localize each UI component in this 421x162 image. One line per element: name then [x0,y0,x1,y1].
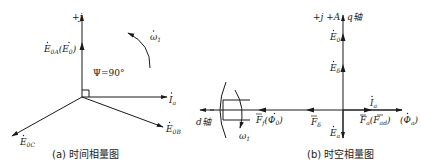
phasor-diagram-figure: +j E0A(E0) Ψ=90° Ia E0B E0C [0,0,421,162]
e0-label: E0 [329,30,341,43]
panel-b-space-time-phasor-diagram: +j +A q轴 E0 Eδ Ia Ea Fa(Fad) [196,12,418,160]
svg-text:E0A(E0): E0A(E0) [43,44,77,55]
e0-arrowhead [341,33,346,41]
panel-a-time-phasor-diagram: +j E0A(E0) Ψ=90° Ia E0B E0C [12,12,181,160]
svg-text:ω1: ω1 [150,32,161,43]
e0c-phasor [12,97,82,136]
svg-text:Ea: Ea [329,128,341,139]
svg-text:E0: E0 [329,32,341,43]
phia-label: (Φa) [400,113,418,126]
svg-text:E0B: E0B [165,124,181,135]
ia-label-b: Ia [369,96,378,109]
fdelta-arrowhead [306,108,314,113]
svg-text:Fa(Fad): Fa(Fad) [359,115,391,126]
e0b-phasor [82,97,163,127]
ff-arrowhead [258,108,266,113]
fa-label: Fa(Fad) [359,115,391,126]
omega-label-b: ω1 [239,131,250,142]
fa-arrowhead [364,108,372,113]
svg-text:Ia: Ia [168,95,177,106]
rotation-arrow [128,33,150,68]
rotor-rotation-arrow [235,90,242,128]
panel-b-caption: (b) 时空相量图 [307,148,374,160]
fdelta-label: Fδ [310,116,321,128]
ff-label: Ff(Φ0) [255,113,283,127]
q-axis-label: +j +A [313,12,341,22]
e0c-label: E0C [19,135,35,148]
e0a-arrowhead [80,42,85,50]
svg-text:Ia: Ia [369,98,378,109]
svg-text:E0C: E0C [19,137,35,148]
e0b-label: E0B [165,122,181,135]
svg-text:Fδ: Fδ [310,117,321,128]
edelta-label: Eδ [329,61,341,74]
d-axis-name: d轴 [196,117,212,127]
j-axis-label: +j [72,12,83,22]
svg-text:Eδ: Eδ [329,63,341,74]
svg-text:Ff(Φ0): Ff(Φ0) [255,115,283,127]
ea-label: Ea [329,126,341,139]
svg-text:(Φa): (Φa) [400,115,418,126]
panel-a-caption: (a) 时间相量图 [52,148,119,160]
edelta-arrowhead [341,64,346,72]
svg-text:ω1: ω1 [239,131,250,142]
angle-label: Ψ=90° [93,68,124,78]
e0a-label: E0A(E0) [43,42,77,55]
ia-label: Ia [168,92,177,106]
omega-label: ω1 [150,30,161,43]
right-angle-marker [82,90,89,97]
q-axis-name: q轴 [347,12,363,22]
